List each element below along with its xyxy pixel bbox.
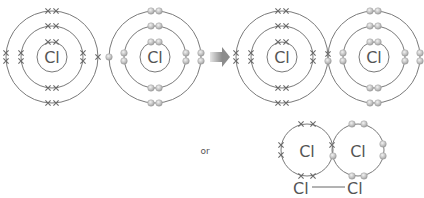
atom-label: Cl [366, 48, 382, 67]
atom-label: Cl [44, 48, 60, 67]
or-label: or [200, 146, 210, 156]
atom-label: Cl [299, 142, 315, 161]
reaction-arrow-icon [210, 47, 230, 67]
atom-label: Cl [350, 142, 366, 161]
atom-label: Cl [147, 48, 163, 67]
bond-formula: Cl Cl [293, 179, 363, 198]
formula-right-atom: Cl [347, 179, 363, 198]
formula-left-atom: Cl [293, 179, 309, 198]
chlorine-bonding-diagram: Cl Cl Cl [0, 0, 424, 198]
atom-label: Cl [274, 48, 290, 67]
